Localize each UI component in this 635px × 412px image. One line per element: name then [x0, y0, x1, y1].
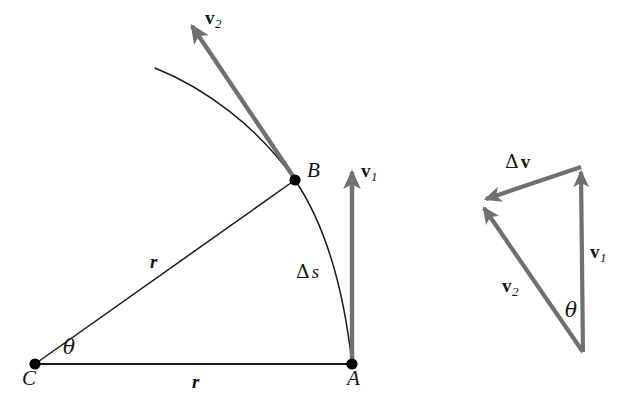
v1-subscript: 1 [371, 169, 378, 184]
vector-label-v2-left: v2 [205, 8, 222, 30]
v2-symbol: v [205, 7, 215, 28]
triangle-vector-v2 [484, 208, 583, 352]
v1-symbol: v [361, 160, 371, 181]
radius-label-ca: r [192, 372, 199, 391]
physics-figure: A B C r r θ Δs v1 v2 Δv v1 v2 θ [0, 0, 635, 412]
arc-length-label: Δs [296, 262, 319, 281]
v2-subscript: 2 [215, 16, 222, 31]
vector-v2-arrow [192, 26, 297, 182]
point-label-c: C [22, 368, 36, 389]
delta-v-vector-symbol: v [521, 151, 531, 172]
vector-label-delta-v: Δv [505, 152, 530, 171]
point-label-a: A [347, 368, 360, 389]
triangle-vector-v1 [581, 172, 583, 352]
arc-variable: s [312, 261, 319, 282]
arc-extension-beyond-b [155, 68, 295, 180]
radius-label-cb: r [150, 252, 157, 271]
vector-label-v2-right: v2 [502, 276, 519, 298]
angle-label-theta-right: θ [565, 300, 577, 320]
triangle-vector-delta-v [486, 167, 581, 199]
v1-subscript-right: 1 [600, 250, 607, 265]
v1-symbol-right: v [590, 241, 600, 262]
angle-label-theta-left: θ [63, 337, 75, 357]
point-label-b: B [307, 160, 320, 181]
v2-symbol-right: v [502, 275, 512, 296]
delta-v-delta-symbol: Δ [505, 150, 519, 172]
delta-symbol: Δ [296, 260, 310, 282]
vector-label-v1-left: v1 [361, 161, 378, 183]
vector-label-v1-right: v1 [590, 242, 607, 264]
figure-canvas [0, 0, 635, 412]
point-b-dot [289, 174, 300, 185]
v2-subscript-right: 2 [512, 284, 519, 299]
